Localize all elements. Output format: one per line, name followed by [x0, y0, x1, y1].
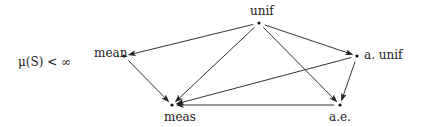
- node-meas: meas: [164, 103, 196, 124]
- implication-diagram: μ(S) < ∞ unifa. unifa.e.meanmeas: [0, 0, 421, 127]
- node-dot-icon: [338, 103, 341, 106]
- node-dot-icon: [257, 21, 260, 24]
- arrow-unif-to-meas: [176, 27, 255, 101]
- node-ae: a.e.: [329, 103, 351, 124]
- arrow-a_unif-to-meas: [177, 58, 351, 104]
- node-label: mean: [94, 46, 128, 60]
- node-label: meas: [164, 110, 196, 124]
- node-dot-icon: [355, 54, 358, 57]
- node-label: a.e.: [329, 110, 351, 124]
- arrow-unif-to-a_unif: [265, 25, 353, 54]
- nodes-group: unifa. unifa.e.meanmeas: [94, 4, 404, 124]
- node-label: a. unif: [364, 48, 404, 62]
- node-dot-icon: [170, 103, 173, 106]
- node-label: unif: [250, 4, 275, 18]
- edges-group: [128, 24, 355, 105]
- node-unif: unif: [250, 4, 275, 25]
- arrow-a_unif-to-ae: [342, 62, 355, 101]
- arrow-mean-to-meas: [128, 60, 168, 101]
- arrow-unif-to-mean: [129, 24, 253, 54]
- node-a_unif: a. unif: [355, 48, 404, 62]
- node-mean: mean: [94, 46, 128, 60]
- finite-measure-condition: μ(S) < ∞: [18, 55, 71, 69]
